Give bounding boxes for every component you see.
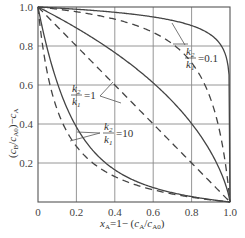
curve-k2-k1-1-dashed- — [38, 7, 230, 202]
x-axis-label: xA=1− (cA/cA0) — [99, 217, 165, 231]
svg-text:k2: k2 — [186, 45, 195, 59]
y-tick-label: 0.4 — [19, 118, 33, 130]
svg-text:k1: k1 — [186, 58, 194, 72]
svg-text:=1: =1 — [84, 89, 96, 101]
annotation-k-ratio-0.1: k2 k1 =0.1 — [172, 23, 218, 72]
y-tick-label: 0.8 — [19, 40, 33, 52]
svg-text:k2: k2 — [72, 82, 81, 96]
x-tick-label: 1.0 — [223, 206, 237, 218]
curves — [38, 7, 230, 202]
annotation-k-ratio-1: k2 k1 =1 — [71, 82, 121, 109]
x-tick-label: 0.2 — [70, 206, 84, 218]
svg-text:=0.1: =0.1 — [198, 52, 218, 64]
x-tick-label: 0 — [35, 206, 41, 218]
svg-text:k2: k2 — [104, 120, 113, 134]
svg-text:k1: k1 — [72, 95, 80, 109]
y-tick-label: 0.6 — [19, 79, 33, 91]
x-tick-label: 0.8 — [185, 206, 199, 218]
y-tick-labels: 0.20.40.60.81.0 — [19, 1, 33, 169]
y-axis-label: (cB/cA0)−cA — [6, 108, 20, 158]
y-tick-label: 1.0 — [19, 1, 33, 13]
y-tick-label: 0.2 — [19, 157, 33, 169]
svg-text:=10: =10 — [116, 127, 134, 139]
svg-text:k1: k1 — [104, 133, 112, 147]
series-reaction-chart: 00.20.40.60.81.0 0.20.40.60.81.0 k2 k1 =… — [0, 0, 245, 238]
